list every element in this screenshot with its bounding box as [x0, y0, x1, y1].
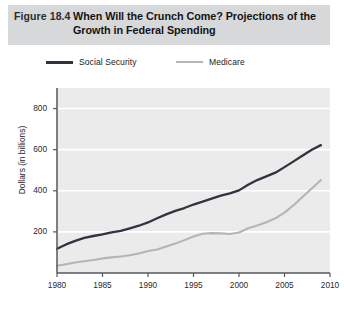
x-tick-label: 2000	[222, 280, 256, 290]
y-tick-label: 600	[21, 144, 47, 154]
x-tick-label: 1990	[131, 280, 165, 290]
y-tick-label: 800	[21, 103, 47, 113]
x-tick-label: 2005	[268, 280, 302, 290]
y-tick-label: 400	[21, 185, 47, 195]
x-tick-label: 1980	[40, 280, 74, 290]
x-tick-label: 1995	[177, 280, 211, 290]
x-tick-label: 1985	[86, 280, 120, 290]
source-note	[8, 302, 330, 311]
x-tick-label: 2010	[313, 280, 344, 290]
y-tick-label: 200	[21, 226, 47, 236]
